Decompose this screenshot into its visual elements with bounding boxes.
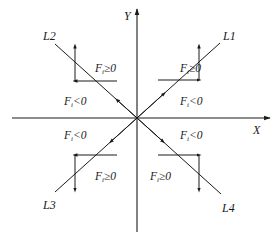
- l1-label: L1: [222, 29, 236, 43]
- q4-above-label: Fi<0: [179, 129, 203, 143]
- line-l1: [137, 43, 220, 118]
- q3-above-label: Fi<0: [63, 129, 87, 143]
- line-l4: [137, 118, 221, 194]
- q1-below-label: Fi<0: [179, 95, 203, 109]
- q3-below-label: Fi≥0: [94, 170, 116, 184]
- q2-above-label: Fi≥0: [94, 62, 116, 76]
- y-axis-label: Y: [124, 9, 132, 23]
- l2-label: L2: [42, 29, 56, 43]
- q1-above-label: Fi≥0: [179, 62, 201, 76]
- direction-diagram: X Y L1 L2 L3 L4 Fi≥0 Fi<0 Fi≥0 Fi<0 Fi<0…: [0, 0, 278, 239]
- l3-label: L3: [42, 198, 56, 212]
- q2-below-label: Fi<0: [63, 95, 87, 109]
- l4-label: L4: [221, 201, 235, 215]
- q4-below-label: Fi≥0: [149, 170, 171, 184]
- x-axis-label: X: [252, 123, 261, 137]
